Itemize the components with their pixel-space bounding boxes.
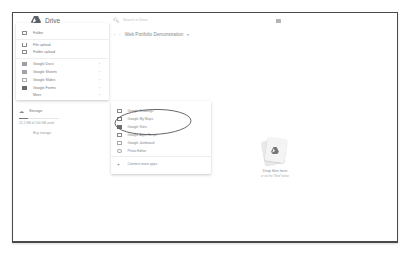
menu-item-label: Folder — [33, 31, 43, 35]
folder-icon — [22, 31, 27, 35]
folder-upload-icon — [22, 50, 27, 54]
submenu-item-photo-editor[interactable]: Photo Editor — [117, 147, 207, 154]
breadcrumb: › ‹ Web Portfolio Demonstration ▾ — [114, 32, 189, 37]
cloud-icon: ☁ — [19, 108, 24, 114]
photo-editor-icon — [117, 149, 122, 153]
menu-item-folder[interactable]: Folder — [22, 29, 103, 37]
menu-item-label: More — [33, 93, 41, 97]
docs-icon — [22, 62, 27, 66]
plus-icon: + — [117, 162, 122, 166]
chevron-right-icon[interactable]: › — [114, 32, 115, 37]
drop-files-zone[interactable]: Drop files here or use the "New" button — [235, 135, 315, 178]
new-menu: Folder File upload Folder upload Google … — [16, 23, 109, 100]
submenu-item-google-drawings[interactable]: Google Drawings — [117, 107, 207, 114]
submenu-item-google-apps-script[interactable]: Google Apps Script — [117, 131, 207, 138]
storage-usage-bar — [19, 118, 59, 119]
menu-divider — [16, 58, 109, 59]
empty-state-subtitle: or use the "New" button — [235, 175, 315, 178]
submenu-item-label: Google Apps Script — [128, 133, 157, 137]
buy-storage-button[interactable]: Buy storage — [33, 131, 99, 135]
submenu-item-label: Google Jamboard — [128, 141, 155, 145]
chevron-down-icon[interactable]: ▾ — [187, 32, 189, 37]
menu-item-label: Google Docs — [33, 62, 54, 66]
my-maps-icon — [117, 117, 122, 121]
chevron-right-icon: › — [99, 93, 100, 97]
jamboard-icon — [117, 141, 122, 145]
storage-section: ☁ Storage 22.2 GB of 100 GB used Buy sto… — [19, 108, 99, 135]
menu-item-label: File upload — [33, 43, 51, 47]
file-upload-icon — [22, 43, 27, 47]
storage-usage-text: 22.2 GB of 100 GB used — [19, 121, 99, 125]
submenu-item-label: Google Drawings — [128, 109, 154, 113]
menu-item-label: Google Slides — [33, 78, 55, 82]
submenu-item-connect-more-apps[interactable]: + Connect more apps — [117, 160, 207, 167]
search-input[interactable] — [123, 18, 203, 22]
menu-divider — [111, 156, 211, 157]
submenu-item-google-sites[interactable]: Google Sites — [117, 123, 207, 130]
apps-script-icon — [117, 133, 122, 137]
sites-icon — [117, 125, 122, 129]
menu-item-google-slides[interactable]: Google Slides › — [22, 76, 103, 84]
sheets-icon — [22, 70, 27, 74]
menu-divider — [16, 39, 109, 40]
menu-item-folder-upload[interactable]: Folder upload — [22, 48, 103, 56]
search-bar[interactable]: 🔍︎ — [113, 17, 203, 23]
submenu-item-google-jamboard[interactable]: Google Jamboard — [117, 139, 207, 146]
submenu-item-google-my-maps[interactable]: Google My Maps — [117, 115, 207, 122]
breadcrumb-current-folder[interactable]: Web Portfolio Demonstration — [125, 32, 184, 37]
forms-icon — [22, 86, 27, 90]
menu-item-label: Google Sheets — [33, 70, 57, 74]
menu-item-google-docs[interactable]: Google Docs › — [22, 60, 103, 68]
storage-link[interactable]: ☁ Storage — [19, 108, 99, 114]
menu-item-more[interactable]: More › — [22, 91, 103, 99]
menu-item-google-sheets[interactable]: Google Sheets › — [22, 68, 103, 76]
submenu-item-label: Google Sites — [128, 125, 147, 129]
chevron-right-icon: › — [99, 70, 100, 74]
chevron-right-icon: › — [99, 86, 100, 90]
slides-icon — [22, 78, 27, 82]
submenu-item-label: Connect more apps — [128, 162, 158, 166]
chevron-left-icon[interactable]: ‹ — [119, 32, 120, 37]
submenu-item-label: Photo Editor — [128, 149, 147, 153]
drawings-icon — [117, 109, 122, 113]
drive-logo-icon — [271, 147, 279, 154]
storage-label: Storage — [29, 109, 42, 113]
more-spacer — [22, 93, 27, 97]
empty-state-title: Drop files here — [235, 169, 315, 173]
grid-view-icon[interactable] — [276, 19, 281, 23]
menu-item-label: Folder upload — [33, 50, 55, 54]
empty-state-illustration — [261, 135, 289, 165]
search-icon[interactable]: 🔍︎ — [113, 17, 119, 23]
chevron-right-icon: › — [99, 78, 100, 82]
submenu-item-label: Google My Maps — [128, 117, 154, 121]
menu-item-label: Google Forms — [33, 86, 56, 90]
browser-window-frame: Drive 🔍︎ › ‹ Web Portfolio Demonstration… — [12, 12, 398, 243]
chevron-right-icon: › — [99, 62, 100, 66]
more-submenu: Google Drawings Google My Maps Google Si… — [111, 101, 211, 174]
